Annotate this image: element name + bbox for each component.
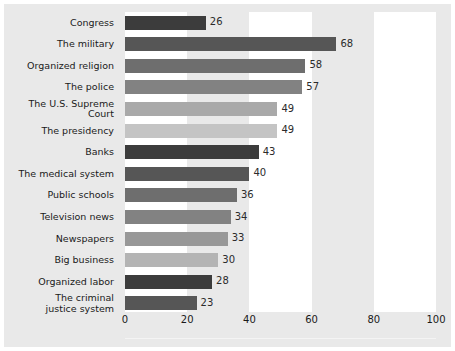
bar [125,210,231,224]
bar-value-label: 36 [241,188,254,202]
bar-row: 26 [125,12,436,34]
bar [125,188,237,202]
category-axis-labels: CongressThe militaryOrganized religionTh… [4,12,119,312]
category-label: The U.S. Supreme Court [4,98,119,120]
bar-value-label: 30 [222,253,235,267]
category-label-line: The U.S. Supreme Court [4,99,114,120]
bottom-rule [125,338,436,339]
bar-value-label: 34 [235,210,248,224]
category-label-line: Banks [85,147,114,158]
bar-value-label: 40 [253,166,266,180]
bar-row: 28 [125,271,436,293]
category-label: The presidency [4,120,119,142]
bar [125,16,206,30]
x-tick-label: 20 [181,314,194,325]
plot-area: 2668585749494340363433302823 [125,12,436,317]
category-label: The military [4,34,119,56]
category-label: The criminaljustice system [4,293,119,315]
bar-row: 30 [125,250,436,272]
x-tick-label: 60 [305,314,318,325]
category-label-line: The presidency [41,126,114,137]
bar [125,59,305,73]
bar-value-label: 23 [201,296,214,310]
bar-value-label: 26 [210,15,223,29]
category-label: Television news [4,206,119,228]
x-tick-label: 0 [122,314,128,325]
bar-value-label: 58 [309,58,322,72]
bar-value-label: 49 [281,123,294,137]
x-tick-label: 80 [367,314,380,325]
bar [125,167,249,181]
bar [125,145,259,159]
category-label-line: Television news [40,212,114,223]
chart-figure: 2668585749494340363433302823 CongressThe… [0,0,455,351]
category-label: The medical system [4,163,119,185]
category-label-line: Organized labor [38,277,114,288]
category-label: Big business [4,250,119,272]
category-label-line: Big business [54,255,114,266]
x-tick-label: 100 [426,314,445,325]
bar [125,80,302,94]
category-label: Congress [4,12,119,34]
bar-value-label: 43 [263,145,276,159]
x-axis-ticks: 020406080100 [125,314,436,334]
category-label-line: justice system [46,304,114,315]
bar-value-label: 68 [340,37,353,51]
bar [125,102,277,116]
category-label: Banks [4,142,119,164]
bar-row: 49 [125,120,436,142]
category-label-line: The police [65,82,114,93]
category-label-line: Organized religion [27,61,114,72]
category-label: Organized religion [4,55,119,77]
category-label: Public schools [4,185,119,207]
bar [125,253,218,267]
bar-row: 43 [125,142,436,164]
bar-row: 34 [125,206,436,228]
bar [125,296,197,310]
category-label-line: The military [57,39,114,50]
category-label-line: The medical system [18,169,114,180]
bar [125,124,277,138]
bar-row: 49 [125,98,436,120]
bar-value-label: 33 [232,231,245,245]
bar-row: 58 [125,55,436,77]
bar-row: 68 [125,34,436,56]
category-label-line: Congress [70,18,114,29]
x-tick-label: 40 [243,314,256,325]
bar-value-label: 28 [216,274,229,288]
bar-row: 33 [125,228,436,250]
bar-row: 23 [125,293,436,315]
bar [125,37,336,51]
category-label: The police [4,77,119,99]
bar-row: 57 [125,77,436,99]
category-label-line: Newspapers [56,234,114,245]
bar [125,232,228,246]
category-label: Newspapers [4,228,119,250]
bar [125,275,212,289]
bar-row: 40 [125,163,436,185]
category-label-line: Public schools [47,190,114,201]
bar-rows: 2668585749494340363433302823 [125,12,436,312]
category-label: Organized labor [4,271,119,293]
bar-row: 36 [125,185,436,207]
bar-value-label: 57 [306,80,319,94]
bar-value-label: 49 [281,102,294,116]
